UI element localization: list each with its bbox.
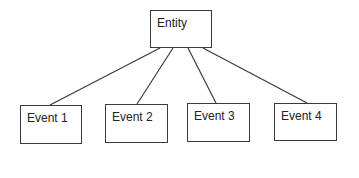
event-2-node: Event 2 xyxy=(105,104,168,143)
event-4-node: Event 4 xyxy=(274,103,337,141)
connector-entity-event-3 xyxy=(188,48,216,103)
connector-entity-event-4 xyxy=(203,48,307,103)
event-2-label: Event 2 xyxy=(112,110,153,124)
connector-entity-event-1 xyxy=(50,48,160,105)
event-3-node: Event 3 xyxy=(187,103,250,142)
event-4-label: Event 4 xyxy=(281,109,322,123)
event-1-label: Event 1 xyxy=(27,111,68,125)
connector-entity-event-2 xyxy=(137,48,173,104)
event-3-label: Event 3 xyxy=(194,109,235,123)
diagram-canvas: Entity Event 1 Event 2 Event 3 Event 4 xyxy=(0,0,359,178)
entity-node-label: Entity xyxy=(157,16,187,30)
event-1-node: Event 1 xyxy=(20,105,82,144)
entity-node: Entity xyxy=(150,10,212,48)
